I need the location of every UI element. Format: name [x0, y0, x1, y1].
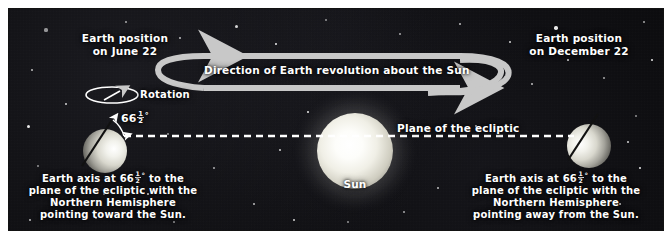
star [213, 167, 215, 169]
star [325, 19, 328, 22]
left-caption-line1: Earth axis at 6612° to the [42, 173, 184, 184]
star [235, 25, 238, 28]
earth-position-december-line2: on December 22 [529, 45, 628, 57]
left-caption-line4: pointing toward the Sun. [40, 209, 186, 220]
star [643, 21, 646, 24]
star [275, 43, 277, 45]
space-background-panel: Earth position on June 22 Rotation 6612°… [8, 8, 664, 231]
left-caption-block: Earth axis at 6612° to the plane of the … [18, 171, 208, 222]
fraction-one-half: 12 [135, 171, 142, 184]
right-caption-line4: pointing away from the Sun. [473, 209, 639, 220]
earth-rotation-ellipse [86, 87, 138, 103]
tilt-angle-label-left: 6612° [121, 111, 149, 126]
star [31, 69, 33, 71]
star [459, 23, 462, 26]
earth-position-june-line1: Earth position [82, 32, 168, 44]
right-caption-line3: Northern Hemisphere [493, 197, 619, 208]
star [37, 165, 39, 167]
star [279, 149, 281, 151]
star [639, 167, 642, 170]
left-caption-line3: Northern Hemisphere [50, 197, 176, 208]
earth-position-december-line1: Earth position [536, 32, 622, 44]
star [437, 187, 439, 189]
star [603, 77, 605, 79]
star [347, 221, 350, 224]
right-caption-line1: Earth axis at 6612° to the [485, 173, 627, 184]
star [531, 83, 533, 85]
star [125, 21, 127, 23]
left-caption-line2: plane of the ecliptic with the [29, 185, 198, 196]
star [567, 59, 569, 61]
star [399, 33, 401, 35]
earth-june-22-sphere [83, 129, 127, 173]
star [44, 28, 47, 31]
star [65, 103, 68, 106]
star [651, 59, 653, 61]
star [635, 115, 637, 117]
earth-position-june-label: Earth position on June 22 [60, 32, 190, 58]
revolution-arrow-left-wrap [158, 56, 204, 88]
revolution-direction-label: Direction of Earth revolution about the … [204, 64, 462, 77]
earth-position-december-label: Earth position on December 22 [504, 32, 654, 58]
astronomy-diagram-figure: Earth position on June 22 Rotation 6612°… [0, 0, 672, 247]
star [167, 133, 169, 135]
rotation-label: Rotation [140, 89, 190, 101]
right-caption-line2: plane of the ecliptic with the [472, 185, 641, 196]
rotation-direction-arrow [104, 91, 120, 100]
fraction-one-half: 12 [137, 111, 144, 125]
earth-position-june-line2: on June 22 [93, 45, 158, 57]
star [293, 219, 295, 221]
sun-label: Sun [325, 178, 385, 191]
earth-december-22-sphere [567, 124, 611, 168]
right-caption-block: Earth axis at 6612° to the plane of the … [456, 171, 656, 222]
fraction-one-half: 12 [578, 171, 585, 184]
star [403, 211, 405, 213]
ecliptic-plane-label: Plane of the ecliptic [397, 122, 519, 135]
star [554, 26, 557, 29]
star [253, 203, 255, 205]
star [627, 141, 629, 143]
star [307, 111, 309, 113]
star [27, 125, 30, 128]
